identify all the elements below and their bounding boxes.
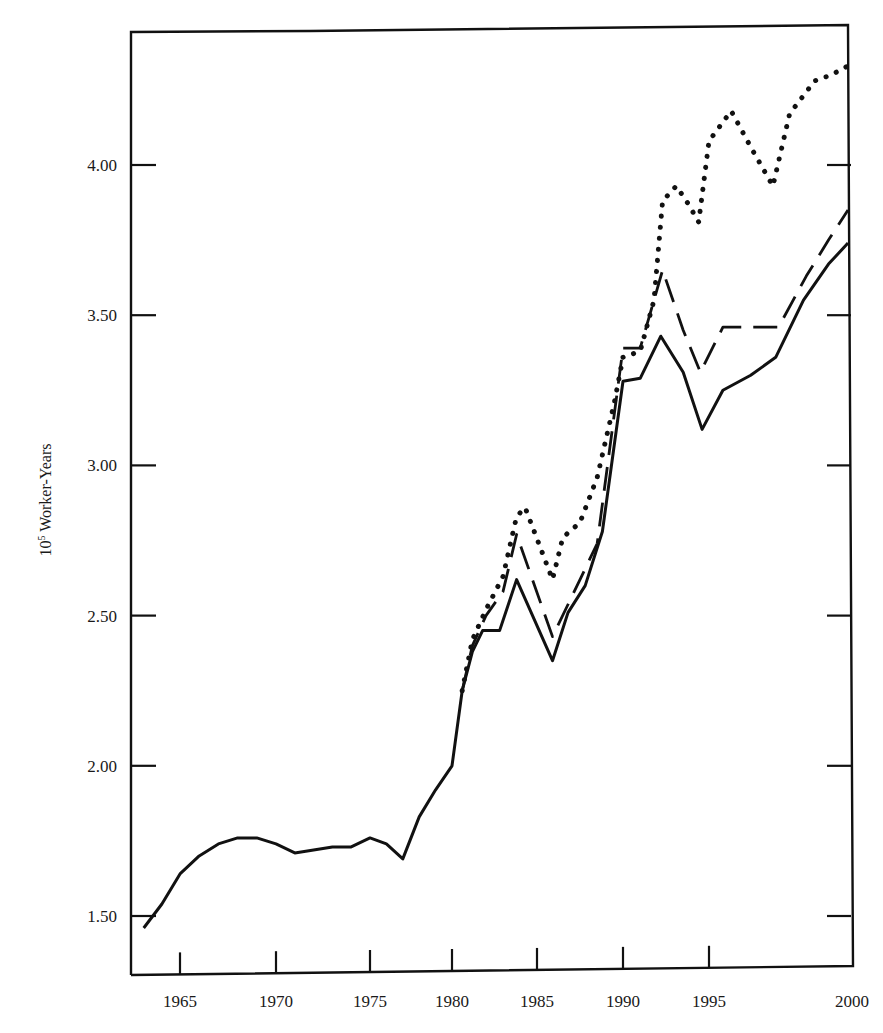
data-series — [144, 66, 848, 928]
x-tick-label: 1980 — [435, 992, 469, 1011]
y-tick-label: 1.50 — [87, 907, 117, 926]
y-tick-label: 3.50 — [87, 306, 117, 325]
series-dotted-line — [462, 66, 848, 691]
y-tick-label: 4.00 — [87, 156, 117, 175]
x-tick-label: 1970 — [259, 992, 293, 1011]
x-tick-label: 1990 — [606, 992, 640, 1011]
x-tick-label: 1975 — [353, 992, 387, 1011]
plot-frame — [131, 25, 853, 975]
x-tick-label: 1985 — [520, 992, 554, 1011]
x-axis-ticks: 19651970197519801985199019952000 — [163, 946, 869, 1011]
line-chart: 1.502.002.503.003.504.00 196519701975198… — [0, 0, 883, 1033]
y-axis-label: 105 Worker-Years — [36, 443, 54, 556]
y-tick-label: 2.50 — [87, 607, 117, 626]
x-tick-label: 1995 — [692, 992, 726, 1011]
x-tick-label: 1965 — [163, 992, 197, 1011]
y-axis-ticks: 1.502.002.503.003.504.00 — [87, 156, 851, 926]
x-tick-label: 2000 — [835, 992, 869, 1011]
axes-box — [131, 25, 853, 975]
y-tick-label: 3.00 — [87, 456, 117, 475]
y-tick-label: 2.00 — [87, 757, 117, 776]
